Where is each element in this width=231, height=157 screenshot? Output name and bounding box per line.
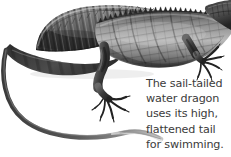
caption-line-3: uses its high, (146, 106, 231, 121)
hindfoot-toes (92, 96, 130, 122)
caption-text-block: The sail-tailed water dragon uses its hi… (146, 76, 231, 152)
caption-line-5: for swimming. (146, 137, 231, 152)
caption-line-1: The sail-tailed (146, 76, 231, 91)
caption-line-2: water dragon (146, 91, 231, 106)
caption-line-4: flattened tail (146, 122, 231, 137)
figure-page: The sail-tailed water dragon uses its hi… (0, 0, 231, 157)
